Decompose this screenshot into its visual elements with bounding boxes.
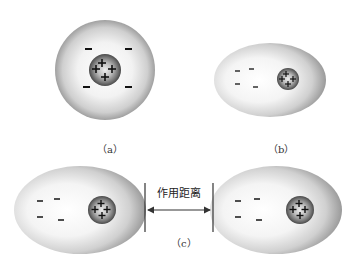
diagram-canvas: （a） （b） <box>0 0 357 270</box>
electron-cloud-right <box>210 166 342 254</box>
panel-c: 作用距离 （c） <box>14 166 342 254</box>
electron-cloud-left <box>14 166 146 254</box>
electron-cloud <box>214 43 326 117</box>
panel-label: （c） <box>171 238 197 249</box>
panel-a: （a） <box>55 20 155 155</box>
interaction-distance-label: 作用距离 <box>157 186 201 200</box>
panel-b: （b） <box>214 43 326 155</box>
panel-label: （a） <box>97 144 123 155</box>
panel-label: （b） <box>268 144 294 155</box>
nucleus <box>89 54 121 86</box>
